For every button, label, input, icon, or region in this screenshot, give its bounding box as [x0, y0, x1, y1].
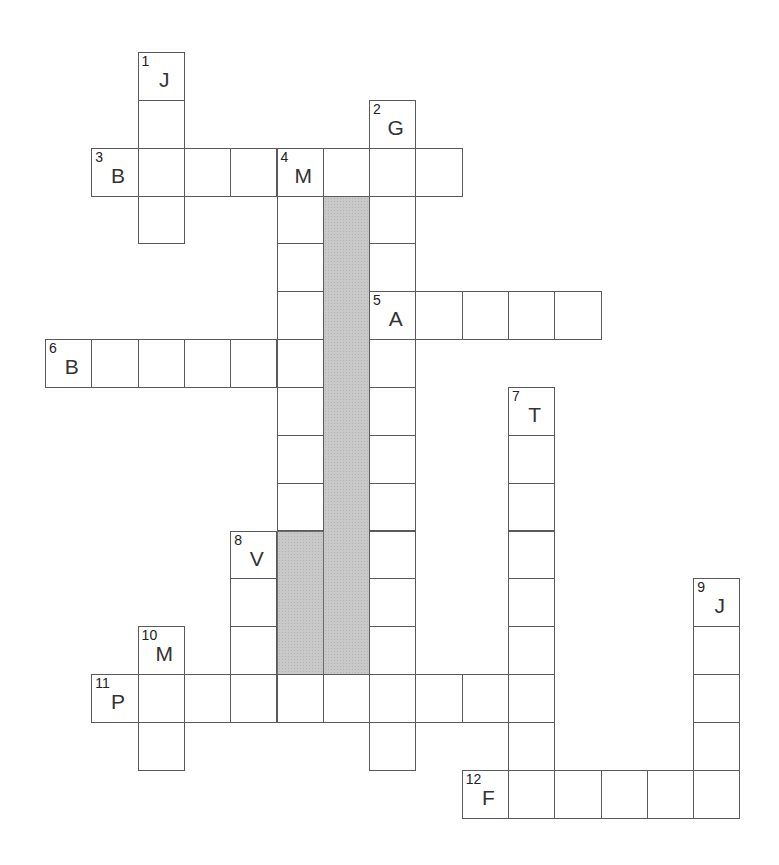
- clue-number: 8: [234, 533, 242, 547]
- clue-number: 4: [281, 150, 289, 164]
- filled-letter: G: [370, 116, 415, 140]
- crossword-cell[interactable]: [138, 148, 185, 197]
- crossword-cell[interactable]: [369, 339, 416, 388]
- crossword-cell[interactable]: [369, 674, 416, 723]
- filled-letter: F: [463, 786, 508, 810]
- shaded-block: [323, 196, 370, 676]
- crossword-cell[interactable]: [554, 291, 601, 340]
- crossword-cell[interactable]: [277, 243, 324, 292]
- crossword-cell[interactable]: [462, 674, 509, 723]
- crossword-cell[interactable]: [138, 339, 185, 388]
- filled-letter: M: [278, 164, 323, 188]
- crossword-cell[interactable]: [369, 387, 416, 436]
- crossword-cell[interactable]: [277, 196, 324, 245]
- crossword-cell[interactable]: [323, 674, 370, 723]
- crossword-cell[interactable]: [508, 770, 555, 819]
- crossword-cell[interactable]: [554, 770, 601, 819]
- clue-number: 10: [142, 628, 158, 642]
- crossword-cell[interactable]: [508, 722, 555, 771]
- crossword-cell[interactable]: [369, 531, 416, 580]
- crossword-cell[interactable]: 4M: [277, 148, 324, 197]
- crossword-cell[interactable]: 10M: [138, 626, 185, 675]
- crossword-cell[interactable]: [184, 674, 231, 723]
- filled-letter: B: [46, 355, 91, 379]
- crossword-cell[interactable]: [415, 674, 462, 723]
- crossword-cell[interactable]: [230, 674, 277, 723]
- crossword-cell[interactable]: [277, 387, 324, 436]
- crossword-cell[interactable]: [277, 339, 324, 388]
- filled-letter: T: [509, 403, 554, 427]
- crossword-grid: 1J2G5A3B4M6B7T8V9J10M11P12F: [0, 0, 779, 865]
- crossword-cell[interactable]: 3B: [91, 148, 138, 197]
- clue-number: 11: [95, 676, 110, 690]
- crossword-cell[interactable]: [369, 435, 416, 484]
- clue-number: 2: [373, 102, 381, 116]
- crossword-cell[interactable]: [508, 435, 555, 484]
- crossword-cell[interactable]: [462, 291, 509, 340]
- crossword-cell[interactable]: [693, 626, 740, 675]
- crossword-cell[interactable]: [323, 148, 370, 197]
- crossword-cell[interactable]: [369, 578, 416, 627]
- filled-letter: J: [139, 68, 184, 92]
- crossword-cell[interactable]: [184, 339, 231, 388]
- filled-letter: A: [370, 307, 415, 331]
- crossword-cell[interactable]: 11P: [91, 674, 138, 723]
- crossword-cell[interactable]: [415, 148, 462, 197]
- crossword-cell[interactable]: [91, 339, 138, 388]
- clue-number: 6: [49, 341, 57, 355]
- crossword-cell[interactable]: [369, 196, 416, 245]
- crossword-cell[interactable]: 6B: [45, 339, 92, 388]
- clue-number: 3: [95, 150, 103, 164]
- shaded-block: [277, 531, 324, 676]
- clue-number: 7: [512, 389, 520, 403]
- crossword-cell[interactable]: [508, 626, 555, 675]
- crossword-cell[interactable]: [230, 339, 277, 388]
- crossword-cell[interactable]: [508, 674, 555, 723]
- crossword-cell[interactable]: 12F: [462, 770, 509, 819]
- filled-letter: V: [231, 547, 276, 571]
- crossword-cell[interactable]: [277, 291, 324, 340]
- crossword-cell[interactable]: 2G: [369, 100, 416, 149]
- crossword-cell[interactable]: [369, 722, 416, 771]
- crossword-cell[interactable]: [369, 626, 416, 675]
- crossword-cell[interactable]: [693, 722, 740, 771]
- crossword-cell[interactable]: 7T: [508, 387, 555, 436]
- crossword-cell[interactable]: 9J: [693, 578, 740, 627]
- clue-number: 9: [697, 580, 705, 594]
- filled-letter: P: [92, 690, 137, 714]
- crossword-cell[interactable]: [277, 483, 324, 532]
- crossword-cell[interactable]: [138, 674, 185, 723]
- crossword-cell[interactable]: [138, 722, 185, 771]
- clue-number: 5: [373, 293, 381, 307]
- crossword-cell[interactable]: 1J: [138, 52, 185, 101]
- crossword-cell[interactable]: [230, 626, 277, 675]
- crossword-cell[interactable]: [230, 578, 277, 627]
- crossword-cell[interactable]: [508, 483, 555, 532]
- crossword-cell[interactable]: 5A: [369, 291, 416, 340]
- crossword-cell[interactable]: [184, 148, 231, 197]
- clue-number: 1: [142, 54, 150, 68]
- crossword-cell[interactable]: [369, 243, 416, 292]
- crossword-cell[interactable]: [138, 100, 185, 149]
- filled-letter: B: [92, 164, 137, 188]
- filled-letter: J: [694, 594, 739, 618]
- crossword-cell[interactable]: [415, 291, 462, 340]
- filled-letter: M: [139, 642, 184, 666]
- crossword-cell[interactable]: [508, 291, 555, 340]
- crossword-cell[interactable]: [508, 578, 555, 627]
- crossword-cell[interactable]: [693, 770, 740, 819]
- crossword-cell[interactable]: [138, 196, 185, 245]
- crossword-cell[interactable]: [369, 483, 416, 532]
- crossword-cell[interactable]: [230, 148, 277, 197]
- clue-number: 12: [466, 772, 482, 786]
- crossword-cell[interactable]: [693, 674, 740, 723]
- crossword-cell[interactable]: [369, 148, 416, 197]
- crossword-cell[interactable]: [508, 531, 555, 580]
- crossword-cell[interactable]: 8V: [230, 531, 277, 580]
- crossword-cell[interactable]: [277, 435, 324, 484]
- crossword-cell[interactable]: [601, 770, 648, 819]
- crossword-cell[interactable]: [647, 770, 694, 819]
- crossword-cell[interactable]: [277, 674, 324, 723]
